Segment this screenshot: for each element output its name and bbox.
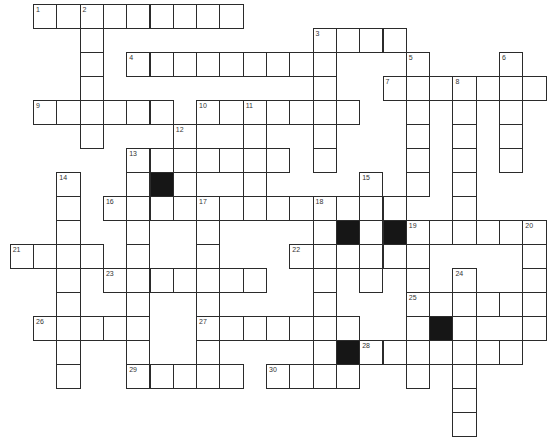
crossword-cell[interactable] (289, 364, 313, 389)
crossword-cell[interactable] (150, 148, 174, 173)
crossword-cell[interactable] (406, 172, 430, 197)
crossword-cell[interactable] (103, 316, 127, 341)
crossword-cell[interactable] (336, 28, 360, 53)
crossword-cell[interactable]: 28 (359, 340, 383, 365)
crossword-cell[interactable]: 1 (33, 4, 57, 29)
crossword-cell[interactable]: 14 (56, 172, 80, 197)
crossword-cell[interactable] (219, 4, 243, 29)
crossword-cell[interactable] (126, 100, 150, 125)
crossword-cell[interactable]: 26 (33, 316, 57, 341)
crossword-cell[interactable]: 3 (313, 28, 337, 53)
crossword-cell[interactable] (406, 148, 430, 173)
crossword-cell[interactable]: 17 (196, 196, 220, 221)
crossword-cell[interactable] (126, 220, 150, 245)
crossword-cell[interactable] (406, 76, 430, 101)
crossword-cell[interactable] (522, 316, 546, 341)
crossword-cell[interactable] (196, 148, 220, 173)
crossword-cell[interactable] (266, 52, 290, 77)
crossword-cell[interactable] (56, 340, 80, 365)
crossword-cell[interactable] (406, 340, 430, 365)
crossword-cell[interactable] (196, 364, 220, 389)
crossword-cell[interactable] (126, 244, 150, 269)
crossword-cell[interactable]: 11 (243, 100, 267, 125)
crossword-cell[interactable] (359, 268, 383, 293)
crossword-cell[interactable] (383, 340, 407, 365)
crossword-cell[interactable] (499, 148, 523, 173)
crossword-cell[interactable] (80, 52, 104, 77)
crossword-cell[interactable] (243, 148, 267, 173)
crossword-cell[interactable] (196, 4, 220, 29)
crossword-cell[interactable] (452, 124, 476, 149)
crossword-cell[interactable] (499, 340, 523, 365)
crossword-cell[interactable] (219, 52, 243, 77)
crossword-cell[interactable] (126, 340, 150, 365)
crossword-cell[interactable] (196, 268, 220, 293)
crossword-cell[interactable] (499, 292, 523, 317)
crossword-cell[interactable] (452, 316, 476, 341)
crossword-cell[interactable]: 18 (313, 196, 337, 221)
crossword-cell[interactable]: 9 (33, 100, 57, 125)
crossword-cell[interactable]: 6 (499, 52, 523, 77)
crossword-cell[interactable]: 24 (452, 268, 476, 293)
crossword-cell[interactable] (499, 100, 523, 125)
crossword-cell[interactable] (383, 196, 407, 221)
crossword-cell[interactable] (243, 124, 267, 149)
crossword-cell[interactable]: 30 (266, 364, 290, 389)
crossword-cell[interactable]: 19 (406, 220, 430, 245)
crossword-cell[interactable] (476, 340, 500, 365)
crossword-cell[interactable] (522, 268, 546, 293)
crossword-cell[interactable]: 16 (103, 196, 127, 221)
crossword-cell[interactable] (313, 244, 337, 269)
crossword-cell[interactable] (56, 268, 80, 293)
crossword-cell[interactable] (289, 196, 313, 221)
crossword-cell[interactable] (359, 28, 383, 53)
crossword-cell[interactable] (56, 364, 80, 389)
crossword-cell[interactable] (289, 100, 313, 125)
crossword-cell[interactable] (406, 268, 430, 293)
crossword-cell[interactable] (336, 196, 360, 221)
crossword-cell[interactable] (80, 316, 104, 341)
crossword-cell[interactable] (313, 124, 337, 149)
crossword-cell[interactable] (429, 340, 453, 365)
crossword-cell[interactable] (219, 148, 243, 173)
crossword-cell[interactable] (266, 100, 290, 125)
crossword-cell[interactable] (452, 148, 476, 173)
crossword-cell[interactable] (173, 52, 197, 77)
crossword-cell[interactable] (522, 76, 546, 101)
crossword-cell[interactable] (56, 316, 80, 341)
crossword-cell[interactable]: 8 (452, 76, 476, 101)
crossword-cell[interactable] (173, 364, 197, 389)
crossword-cell[interactable] (126, 316, 150, 341)
crossword-cell[interactable] (196, 292, 220, 317)
crossword-cell[interactable] (80, 28, 104, 53)
crossword-cell[interactable] (196, 52, 220, 77)
crossword-cell[interactable]: 4 (126, 52, 150, 77)
crossword-cell[interactable] (522, 244, 546, 269)
crossword-cell[interactable] (56, 4, 80, 29)
crossword-cell[interactable]: 27 (196, 316, 220, 341)
crossword-cell[interactable] (150, 4, 174, 29)
crossword-cell[interactable] (313, 100, 337, 125)
crossword-cell[interactable] (243, 52, 267, 77)
crossword-cell[interactable] (150, 196, 174, 221)
crossword-cell[interactable] (126, 268, 150, 293)
crossword-cell[interactable] (429, 292, 453, 317)
crossword-cell[interactable] (452, 388, 476, 413)
crossword-cell[interactable]: 12 (173, 124, 197, 149)
crossword-cell[interactable] (522, 292, 546, 317)
crossword-cell[interactable]: 20 (522, 220, 546, 245)
crossword-cell[interactable] (499, 76, 523, 101)
crossword-cell[interactable] (452, 292, 476, 317)
crossword-cell[interactable] (313, 292, 337, 317)
crossword-cell[interactable] (196, 220, 220, 245)
crossword-cell[interactable] (150, 364, 174, 389)
crossword-cell[interactable] (313, 268, 337, 293)
crossword-cell[interactable] (56, 220, 80, 245)
crossword-cell[interactable] (173, 148, 197, 173)
crossword-cell[interactable] (103, 100, 127, 125)
crossword-cell[interactable] (429, 76, 453, 101)
crossword-cell[interactable] (406, 316, 430, 341)
crossword-cell[interactable] (313, 76, 337, 101)
crossword-cell[interactable] (80, 76, 104, 101)
crossword-cell[interactable] (243, 196, 267, 221)
